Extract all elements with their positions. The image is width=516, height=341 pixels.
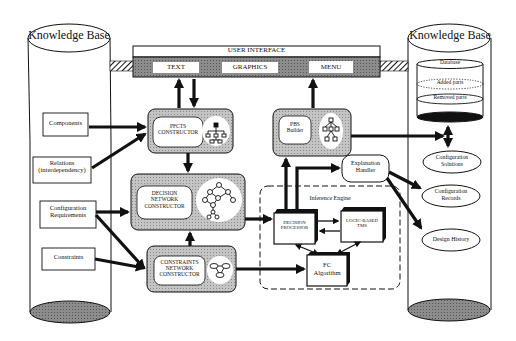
- relations-line2: (interdependency): [33, 167, 91, 174]
- logic-tms-label: LOGIC-BASED TMS: [341, 218, 383, 228]
- left-kb-title: Knowledge Base: [28, 29, 110, 42]
- explanation-handler-label: Explanation Handler: [342, 160, 389, 174]
- config-solutions-label: Configuration Solutions: [423, 154, 481, 168]
- config-records-label: Configuration Records: [422, 188, 480, 202]
- relations-label: Relations (interdependency): [33, 160, 91, 174]
- cr-line1: Configuration: [422, 188, 480, 195]
- cs-line1: Configuration: [423, 154, 481, 161]
- dp-line2: PROCESSOR: [274, 225, 315, 230]
- left-connector-hatch: [110, 61, 134, 71]
- config-requirements-label: Configuration Requirements: [40, 205, 96, 219]
- removed-parts-label: Removed parts: [417, 95, 483, 101]
- tms-line2: TMS: [341, 223, 383, 228]
- ui-tab-graphics[interactable]: GRAPHICS: [222, 64, 278, 71]
- config-req-line2: Requirements: [40, 212, 96, 219]
- fc-line2: Algorithm: [307, 269, 347, 277]
- database-cylinder: [417, 60, 483, 123]
- pfcts-line2: CONSTRUCTOR: [153, 130, 203, 136]
- pbs-label: PBS Builder: [279, 122, 311, 134]
- cs-line2: Solutions: [423, 161, 481, 168]
- pbs-line2: Builder: [279, 128, 311, 134]
- inference-engine-title: Inference Engine: [300, 195, 360, 201]
- cr-line2: Records: [422, 195, 480, 202]
- fc-algorithm-label: FC Algorithm: [307, 261, 347, 277]
- dn-line3: CONSTRUCTOR: [137, 203, 192, 209]
- constraints-label: Constraints: [42, 254, 95, 261]
- eh-line2: Handler: [342, 167, 389, 174]
- right-connector-hatch: [380, 61, 408, 71]
- pfcts-label: PFCTS CONSTRUCTOR: [153, 124, 203, 136]
- constraints-network-label: CONSTRAINTS NETWORK CONSTRUCTOR: [154, 259, 205, 277]
- added-parts-label: Added parts: [417, 80, 483, 86]
- ui-tab-menu[interactable]: MENU: [309, 64, 353, 71]
- ui-tab-text[interactable]: TEXT: [153, 64, 199, 71]
- eh-line1: Explanation: [342, 160, 389, 167]
- components-label: Components: [43, 120, 88, 127]
- cn-line3: CONSTRUCTOR: [154, 271, 205, 277]
- design-history-label: Design History: [422, 236, 480, 242]
- right-kb-title: Knowledge Base: [408, 29, 492, 42]
- database-label: Database: [417, 60, 483, 66]
- fc-line1: FC: [307, 261, 347, 269]
- decision-processor-label: DECISION PROCESSOR: [274, 220, 315, 230]
- ui-title: USER INTERFACE: [133, 47, 380, 54]
- decision-network-label: DECISION NETWORK CONSTRUCTOR: [137, 190, 192, 209]
